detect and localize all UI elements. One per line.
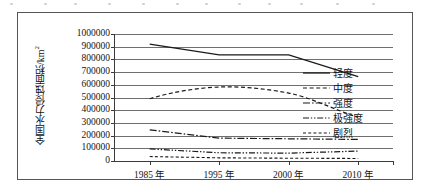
x-tick-label: 1995 年 xyxy=(204,167,235,181)
x-tickmark xyxy=(150,161,151,165)
y-tick-label: 400000 xyxy=(48,105,110,114)
legend-label: 强度 xyxy=(333,95,353,110)
legend-swatch-short-dash-icon xyxy=(303,128,330,138)
y-tick-label: 600000 xyxy=(48,80,110,89)
series-line-julie xyxy=(150,157,359,159)
chart-area: 全国水力侵蚀面积/km2 1000000 900000 800000 70000… xyxy=(18,13,414,181)
y-axis-tick-labels: 1000000 900000 800000 700000 600000 5000… xyxy=(44,13,110,181)
legend-item-qingdu: 轻度 xyxy=(303,65,407,80)
x-tickmark xyxy=(393,161,394,165)
y-tick-label: 0 xyxy=(48,156,110,165)
y-tick-label: 700000 xyxy=(48,67,110,76)
legend-label: 轻度 xyxy=(333,65,353,80)
legend-label: 中度 xyxy=(333,80,353,95)
y-tick-label: 100000 xyxy=(48,143,110,152)
legend-label: 剧烈 xyxy=(333,125,353,140)
x-tickmark xyxy=(358,161,359,165)
y-axis-title: 全国水力侵蚀面积/km2 xyxy=(30,29,44,161)
y-tick-label: 300000 xyxy=(48,118,110,127)
chart-figure-frame: 全国水力侵蚀面积/km2 1000000 900000 800000 70000… xyxy=(17,12,413,180)
x-tick-label: 2000 年 xyxy=(273,167,304,181)
x-tickmark xyxy=(289,161,290,165)
y-tick-label: 1000000 xyxy=(48,29,110,38)
legend-swatch-solid-icon xyxy=(303,68,330,78)
legend-swatch-dashed-icon xyxy=(303,83,330,93)
y-tickmark xyxy=(111,161,115,162)
y-tick-label: 200000 xyxy=(48,131,110,140)
y-tick-label: 900000 xyxy=(48,42,110,51)
legend-item-qiangdu: 强度 xyxy=(303,95,407,110)
legend-label: 极强度 xyxy=(333,110,363,125)
chart-legend: 轻度 中度 强度 极强度 xyxy=(303,65,407,140)
series-line-jiqiangdu xyxy=(150,149,359,153)
x-tick-label: 1985 年 xyxy=(134,167,165,181)
y-tick-label: 500000 xyxy=(48,93,110,102)
x-tickmark xyxy=(219,161,220,165)
legend-item-zhongdu: 中度 xyxy=(303,80,407,95)
y-tick-label: 800000 xyxy=(48,54,110,63)
legend-item-julie: 剧烈 xyxy=(303,125,407,140)
legend-swatch-dash-dot-icon xyxy=(303,98,330,108)
x-tick-label: 2010 年 xyxy=(343,167,374,181)
legend-swatch-dash-dot-dot-icon xyxy=(303,113,330,123)
legend-item-jiqiangdu: 极强度 xyxy=(303,110,407,125)
